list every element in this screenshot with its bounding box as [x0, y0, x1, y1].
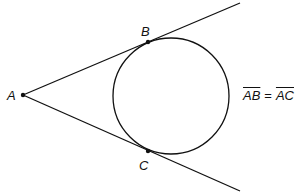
point-b [146, 40, 150, 44]
equation-ab-equals-ac: AB=AC [243, 89, 294, 102]
label-b: B [141, 25, 150, 38]
tangent-line-ac [23, 95, 240, 191]
point-a [21, 93, 25, 97]
tangent-line-ab [23, 3, 240, 95]
segment-ac: AC [276, 88, 294, 103]
label-c: C [139, 159, 148, 172]
point-c [146, 149, 150, 153]
segment-ab: AB [243, 88, 260, 103]
label-a: A [7, 89, 16, 102]
equals-sign: = [264, 88, 272, 103]
circle [113, 38, 229, 154]
